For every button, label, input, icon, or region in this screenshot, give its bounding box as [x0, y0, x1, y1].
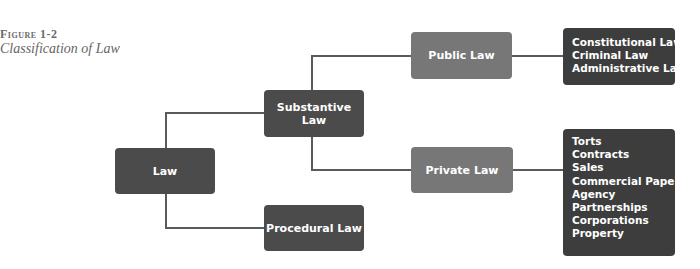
list-item: Corporations [572, 214, 675, 227]
connector-private-list [512, 169, 564, 171]
list-item: Administrative Law [572, 62, 675, 75]
list-item: Criminal Law [572, 49, 675, 62]
node-public-law: Public Law [411, 32, 512, 79]
figure-caption: Figure 1-2 Classification of Law [0, 27, 120, 57]
connector-law-substantive [165, 112, 265, 114]
connector-substantive-private [311, 169, 412, 171]
figure-title: Classification of Law [0, 41, 120, 57]
list-item: Commercial Paper [572, 175, 675, 188]
connector-substantive-public [311, 55, 412, 57]
connector-public-list [511, 55, 564, 57]
private-law-list: Torts Contracts Sales Commercial Paper A… [563, 129, 675, 256]
figure-label: Figure 1-2 [0, 27, 120, 41]
connector-law-procedural [165, 227, 265, 229]
node-law: Law [115, 148, 215, 194]
list-item: Torts [572, 135, 675, 148]
list-item: Sales [572, 161, 675, 174]
list-item: Contracts [572, 148, 675, 161]
public-law-list: Constitutional Law Criminal Law Administ… [563, 28, 675, 85]
node-substantive-law: Substantive Law [264, 90, 364, 137]
list-item: Partnerships [572, 201, 675, 214]
list-item: Property [572, 227, 675, 240]
node-procedural-law: Procedural Law [264, 205, 364, 251]
list-item: Agency [572, 188, 675, 201]
node-private-law: Private Law [411, 147, 513, 193]
list-item: Constitutional Law [572, 36, 675, 49]
